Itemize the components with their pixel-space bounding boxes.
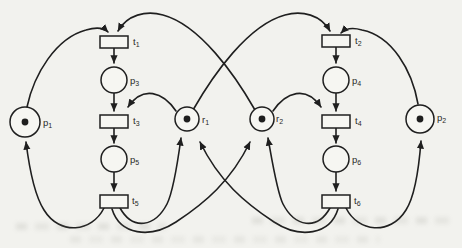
place-label-p1: p1 (43, 117, 52, 129)
place-label-p4: p4 (352, 75, 361, 87)
arc-t6-to-r1 (200, 142, 338, 232)
place-label-r2: r2 (276, 113, 283, 125)
transition-label-t3: t3 (133, 115, 140, 127)
transition-label-t5: t5 (132, 195, 139, 207)
place-label-r1: r1 (202, 114, 209, 126)
token-r2 (259, 116, 266, 123)
place-label-p6: p6 (352, 154, 361, 166)
token-p1 (22, 119, 29, 126)
arc-t5-to-p1 (26, 142, 104, 228)
transition-t6 (322, 195, 350, 208)
transition-label-t2: t2 (355, 35, 362, 47)
transition-t1 (100, 36, 128, 48)
place-p3 (101, 67, 127, 93)
transition-t2 (322, 35, 350, 47)
transition-t5 (100, 195, 128, 208)
place-label-p3: p3 (130, 75, 139, 87)
arc-t6-to-r2 (268, 138, 330, 223)
arc-t5-to-r1 (120, 138, 181, 223)
place-label-p2: p2 (437, 112, 446, 124)
place-p5 (101, 146, 127, 172)
place-label-p5: p5 (130, 154, 139, 166)
token-r1 (184, 116, 191, 123)
token-p2 (417, 116, 424, 123)
place-p4 (323, 67, 349, 93)
arc-r1-to-t3 (128, 93, 176, 111)
transition-label-t4: t4 (355, 115, 362, 127)
transition-label-t1: t1 (133, 36, 140, 48)
transition-label-t6: t6 (354, 195, 361, 207)
arc-p1-to-t1 (27, 28, 108, 107)
arc-p2-to-t2 (341, 29, 418, 104)
arc-r2-to-t4 (273, 93, 321, 111)
place-p6 (323, 146, 349, 172)
transition-t4 (322, 115, 350, 128)
petri-net-canvas: t1t2t3t4t5t6p1p2p3p4p5p6r1r2 (0, 0, 462, 248)
transition-t3 (100, 115, 128, 128)
petri-net-figure: t1t2t3t4t5t6p1p2p3p4p5p6r1r2 (0, 0, 462, 248)
